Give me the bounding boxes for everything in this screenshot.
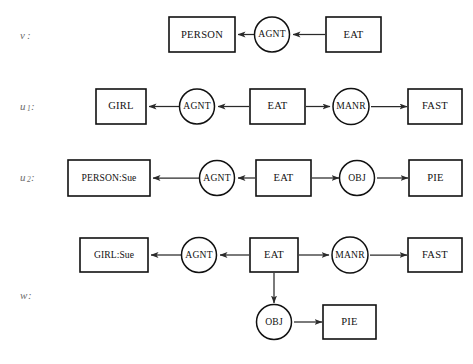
row-label-v: v (20, 29, 25, 41)
node-label-eat: EAT (343, 29, 363, 40)
row-label-u2: u (20, 171, 26, 183)
row-v: v : PERSON AGNT EAT (20, 17, 381, 52)
node-label-pie: PIE (427, 172, 444, 183)
node-label-obj: OBJ (348, 172, 366, 183)
node-agnt-u1[interactable]: AGNT (180, 89, 215, 124)
node-obj-u2[interactable]: OBJ (340, 161, 375, 196)
node-label-obj: OBJ (265, 316, 283, 327)
node-pie-u2[interactable]: PIE (409, 160, 462, 196)
row-label-u1-colon: : (31, 100, 35, 112)
node-person-sue-u2[interactable]: PERSON:Sue (68, 160, 150, 196)
node-eat-w[interactable]: EAT (250, 238, 298, 272)
row-label-v-colon: : (27, 29, 31, 41)
node-fast-w[interactable]: FAST (408, 238, 462, 272)
node-fast-u1[interactable]: FAST (408, 89, 462, 124)
node-agnt-u2[interactable]: AGNT (200, 161, 235, 196)
row-w: w : GIRL:Sue AGNT EAT MANR (20, 237, 462, 340)
node-label-person: PERSON (181, 29, 223, 40)
diagram-canvas: v : PERSON AGNT EAT u 1 : (0, 0, 473, 364)
node-label-agnt: AGNT (183, 100, 210, 111)
node-label-eat: EAT (267, 100, 287, 111)
node-eat-v[interactable]: EAT (326, 17, 381, 52)
node-label-manr: MANR (336, 100, 366, 111)
node-label-girl: GIRL (108, 100, 134, 111)
node-agnt-v[interactable]: AGNT (255, 17, 290, 52)
conceptual-graph-diagram: v : PERSON AGNT EAT u 1 : (0, 0, 473, 364)
node-eat-u1[interactable]: EAT (250, 89, 305, 124)
node-label-fast: FAST (422, 249, 448, 260)
node-label-agnt: AGNT (185, 249, 212, 260)
node-label-eat: EAT (273, 172, 293, 183)
node-label-person-sue: PERSON:Sue (82, 172, 137, 183)
node-eat-u2[interactable]: EAT (256, 160, 311, 196)
node-label-fast: FAST (422, 100, 448, 111)
node-manr-u1[interactable]: MANR (333, 89, 369, 125)
node-label-eat: EAT (264, 249, 284, 260)
node-obj-w[interactable]: OBJ (257, 305, 292, 340)
row-label-w-colon: : (28, 289, 32, 301)
row-u2: u 2 : PERSON:Sue AGNT EAT OBJ (20, 160, 462, 196)
row-label-w: w (20, 289, 28, 301)
node-girl-u1[interactable]: GIRL (96, 89, 146, 124)
node-label-girl-sue: GIRL:Sue (94, 249, 134, 260)
node-person-v[interactable]: PERSON (169, 17, 235, 52)
node-pie-w[interactable]: PIE (323, 305, 376, 339)
row-label-u1: u (20, 100, 26, 112)
node-label-agnt: AGNT (203, 172, 230, 183)
node-manr-w[interactable]: MANR (332, 237, 368, 273)
node-girl-sue-w[interactable]: GIRL:Sue (80, 238, 148, 272)
node-label-manr: MANR (335, 249, 365, 260)
node-agnt-w[interactable]: AGNT (182, 238, 217, 273)
row-label-u2-colon: : (31, 171, 35, 183)
row-u1: u 1 : GIRL AGNT EAT MANR (20, 89, 462, 125)
node-label-pie: PIE (341, 316, 358, 327)
node-label-agnt: AGNT (258, 28, 285, 39)
